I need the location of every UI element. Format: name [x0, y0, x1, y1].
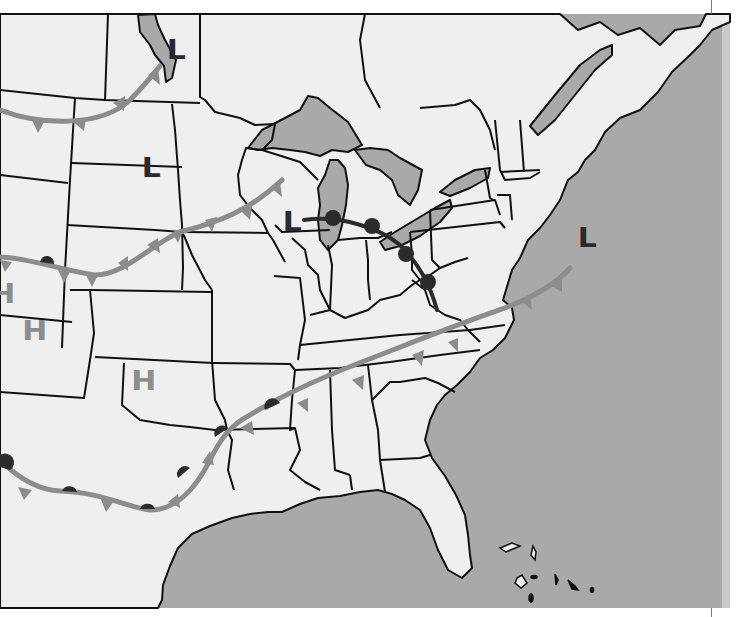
high-pressure-label: H: [131, 368, 156, 394]
high-pressure-label: H: [0, 281, 15, 307]
weather-map: [0, 0, 737, 617]
page-gutter-line: [711, 0, 712, 14]
low-pressure-label: L: [283, 209, 302, 235]
high-pressure-label: H: [22, 318, 47, 344]
page-gutter-line: [711, 608, 712, 617]
low-pressure-label: L: [578, 225, 597, 251]
low-pressure-label: L: [167, 37, 186, 63]
low-pressure-label: L: [142, 155, 161, 181]
